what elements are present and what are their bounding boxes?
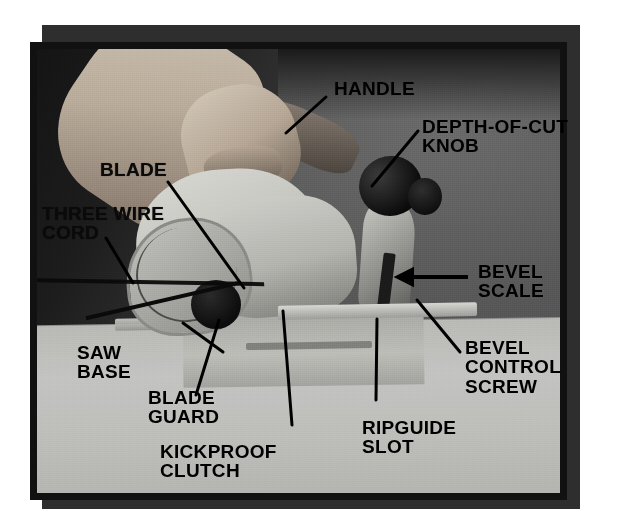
- label-three-wire-cord: THREE WIRE CORD: [42, 204, 164, 243]
- label-handle: HANDLE: [334, 79, 415, 98]
- label-blade: BLADE: [100, 160, 167, 179]
- label-saw-base: SAW BASE: [77, 343, 131, 382]
- label-depth-of-cut-knob: DEPTH-OF-CUT KNOB: [422, 117, 568, 156]
- label-bevel-control-screw: BEVEL CONTROL SCREW: [465, 338, 561, 396]
- label-kickproof-clutch: KICKPROOF CLUTCH: [160, 442, 277, 481]
- label-bevel-scale: BEVEL SCALE: [478, 262, 544, 301]
- label-ripguide-slot: RIPGUIDE SLOT: [362, 418, 456, 457]
- figure-canvas: HANDLE DEPTH-OF-CUT KNOB BLADE THREE WIR…: [0, 0, 617, 532]
- label-blade-guard: BLADE GUARD: [148, 388, 219, 427]
